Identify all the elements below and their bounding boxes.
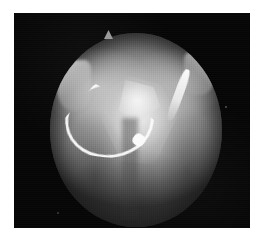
film-grain-overlay (50, 33, 222, 227)
circular-field-of-view (50, 33, 222, 227)
image-frame (14, 13, 250, 228)
page-root (0, 0, 265, 244)
dust-speck (57, 212, 59, 214)
dust-speck (225, 106, 227, 108)
